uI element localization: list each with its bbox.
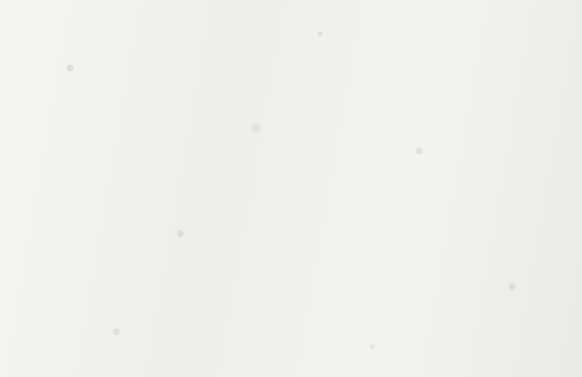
legend-cutoff: Population M	[4, 370, 154, 377]
bar-series-a	[192, 137, 293, 148]
bar-row	[192, 266, 541, 299]
bar-row	[192, 69, 541, 102]
x-tick-label: 20%	[524, 333, 558, 355]
bar-series-a	[192, 6, 197, 17]
category-label: Turkey	[131, 44, 182, 62]
bar-row	[192, 200, 541, 233]
bar-series-b	[192, 52, 206, 63]
category-label: Italy	[149, 109, 182, 127]
bar-series-a	[192, 202, 384, 213]
legend-label: Population M	[20, 370, 91, 377]
x-tick-label: 0%	[180, 333, 205, 355]
value-axis-labels: 0%5%10%15%20%	[192, 333, 541, 363]
bar-row	[192, 233, 541, 266]
bar-series-b	[192, 281, 469, 292]
bar-series-b	[192, 248, 419, 259]
category-label: Belgium	[121, 142, 182, 160]
bar-series-b	[192, 215, 326, 226]
x-tick-label: 15%	[437, 333, 471, 355]
bar-series-b	[192, 117, 244, 128]
category-label: Romania	[118, 77, 182, 95]
category-label: Russia	[135, 240, 182, 258]
category-label: France	[134, 175, 182, 193]
bar-series-a	[192, 169, 330, 180]
x-tick-label: 10%	[349, 333, 383, 355]
bar-row	[192, 37, 541, 70]
category-label: Austria-Hungary	[62, 208, 182, 226]
bar-series-b	[192, 313, 506, 324]
bar-chart: BulgariaTurkeyRomaniaItalyBelgiumFranceA…	[0, 0, 582, 377]
bar-series-a	[192, 300, 510, 311]
category-label: U.S.A.	[133, 273, 182, 291]
bar-series-a	[192, 104, 264, 115]
category-label: Bulgaria	[121, 11, 182, 29]
bar-row	[192, 167, 541, 200]
bar-series-b	[192, 182, 283, 193]
bar-row	[192, 298, 541, 331]
bar-row	[192, 102, 541, 135]
category-axis-labels: BulgariaTurkeyRomaniaItalyBelgiumFranceA…	[0, 4, 186, 331]
bar-series-b	[192, 150, 251, 161]
legend-swatch	[4, 370, 16, 377]
x-tick-label: 5%	[267, 333, 292, 355]
bar-rows	[192, 4, 541, 331]
bar-series-a	[192, 268, 318, 279]
bar-row	[192, 4, 541, 37]
bar-row	[192, 135, 541, 168]
bar-series-a	[192, 235, 346, 246]
bar-series-a	[192, 71, 218, 82]
bar-series-b	[192, 84, 202, 95]
category-label: British Empire	[77, 306, 182, 324]
bar-series-a	[192, 39, 211, 50]
